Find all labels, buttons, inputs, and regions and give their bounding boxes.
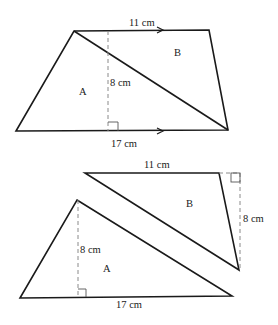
triangle-a-outline: [20, 200, 232, 298]
trapezium-figure: 11 cm 17 cm 8 cm A B: [16, 17, 228, 149]
trapezium-top-label: 11 cm: [129, 17, 155, 28]
triangle-a-label: A: [103, 263, 111, 274]
triangle-b-right-angle-marker: [231, 173, 240, 182]
region-a-label: A: [79, 86, 87, 97]
triangle-a-base-label: 17 cm: [116, 299, 142, 310]
trapezium-right-angle-marker: [108, 122, 118, 131]
trapezium-area-diagram: 11 cm 17 cm 8 cm A B 11 cm 8 cm B 8 cm A…: [0, 0, 278, 325]
triangle-b-top-label: 11 cm: [144, 159, 170, 170]
region-b-label: B: [174, 47, 181, 58]
trapezium-height-label: 8 cm: [110, 77, 131, 88]
triangle-b-label: B: [186, 198, 193, 209]
trapezium-diagonal: [74, 31, 228, 130]
triangle-b-height-label: 8 cm: [243, 213, 264, 224]
triangle-a-right-angle-marker: [78, 289, 86, 297]
trapezium-bottom-label: 17 cm: [111, 138, 137, 149]
triangle-a-figure: 8 cm A 17 cm: [20, 200, 232, 310]
triangle-b-outline: [85, 173, 239, 270]
triangle-a-height-label: 8 cm: [80, 244, 101, 255]
triangle-b-figure: 11 cm 8 cm B: [85, 159, 264, 270]
